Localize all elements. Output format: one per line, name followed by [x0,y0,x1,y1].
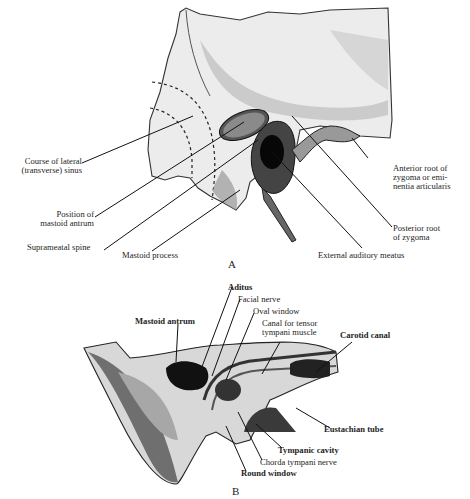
figure-a-bone [148,8,392,242]
label-suprameatal-spine: Suprameatal spine [27,243,90,252]
label-line: mastoid antrum [0,219,94,228]
label-posterior-root-zygoma: Posterior root of zygoma [393,224,440,242]
label-carotid-canal: Carotid canal [340,331,390,340]
label-lateral-sinus: Course of lateral (transverse) sinus [0,157,82,175]
label-position-mastoid-antrum: Position of mastoid antrum [0,210,94,228]
label-mastoid-antrum: Mastoid antrum [135,317,195,326]
label-facial-nerve: Facial nerve [238,295,280,304]
label-line: nentia articularis [393,182,451,191]
label-canal-tensor-tympani: Canal for tensor tympani muscle [262,319,317,337]
label-mastoid-process: Mastoid process [122,251,178,260]
label-round-window: Round window [241,469,297,478]
label-line: tympani muscle [262,328,317,337]
label-aditus: Aditus [228,283,252,292]
label-external-auditory-meatus: External auditory meatus [318,251,404,260]
label-anterior-root-zygoma: Anterior root of zygoma or emi- nentia a… [393,164,451,191]
label-line: of zygoma [393,233,440,242]
label-eustachian-tube: Eustachian tube [324,425,383,434]
figure-a-caption: A [228,258,236,270]
label-tympanic-cavity: Tympanic cavity [278,446,339,455]
label-chorda-tympani-nerve: Chorda tympani nerve [260,458,337,467]
label-line: (transverse) sinus [0,166,82,175]
figure-b-caption: B [232,485,239,497]
label-oval-window: Oval window [253,307,300,316]
